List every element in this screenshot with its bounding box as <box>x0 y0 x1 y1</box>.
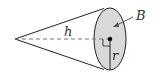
radius-label: r <box>112 48 119 63</box>
base-area-label: B <box>135 8 146 23</box>
height-label: h <box>64 24 72 39</box>
center-point <box>108 37 112 41</box>
cone-diagram: h B r <box>0 0 157 78</box>
